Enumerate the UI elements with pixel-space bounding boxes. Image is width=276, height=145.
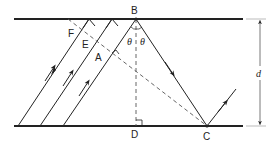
label-c: C	[203, 131, 210, 142]
point-b	[134, 17, 137, 20]
theta-left: θ	[127, 36, 132, 47]
label-b: B	[131, 5, 138, 16]
reflection-tick-2	[106, 19, 118, 28]
label-d: D	[131, 129, 138, 140]
label-f: F	[68, 28, 74, 39]
angle-arc-left	[131, 27, 136, 29]
label-a: A	[95, 52, 102, 63]
theta-right: θ	[140, 36, 145, 47]
ray-diagram: B F E A D C θ θ d	[0, 0, 276, 145]
incident-rays	[18, 19, 136, 126]
wavefront-dashed	[68, 19, 207, 126]
label-e: E	[82, 39, 89, 50]
reflection-tick-1	[83, 19, 95, 28]
point-c	[205, 124, 208, 127]
